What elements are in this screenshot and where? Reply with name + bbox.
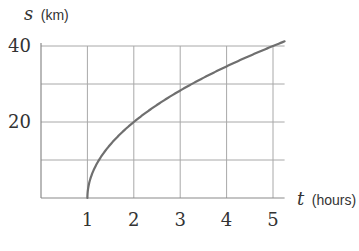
y-tick-labels: 2040 [8,35,31,132]
y-axis-unit: (km) [41,7,69,23]
x-tick-label: 4 [221,209,232,230]
axes [41,43,285,198]
x-axis-unit: (hours) [312,192,356,208]
y-axis-variable: s [24,3,33,24]
x-tick-labels: 12345 [82,209,279,230]
x-axis-variable: t [297,188,305,209]
x-tick-label: 3 [174,209,185,230]
x-tick-label: 5 [267,209,278,230]
y-tick-label: 20 [8,111,31,132]
x-tick-label: 2 [128,209,139,230]
y-tick-label: 40 [8,35,31,56]
x-axis-label: t (hours) [297,188,356,209]
data-curve [87,41,284,198]
chart: 12345 2040 s (km) t (hours) [0,0,359,251]
grid [41,46,285,198]
x-tick-label: 1 [82,209,93,230]
y-axis-label: s (km) [24,3,69,24]
